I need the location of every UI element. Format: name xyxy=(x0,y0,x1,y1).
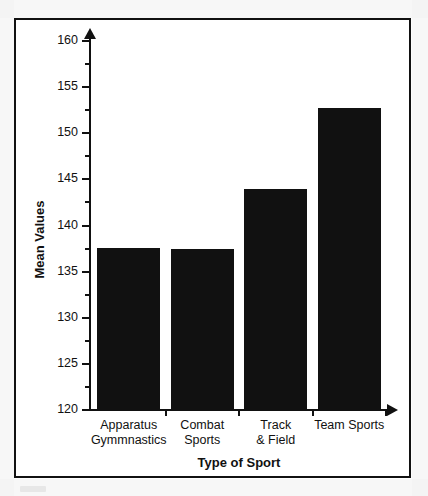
y-tick-major xyxy=(82,271,90,273)
y-tick-major xyxy=(82,225,90,227)
bar-chart: 120125130135140145150155160 ApparatusGym… xyxy=(0,0,428,496)
x-axis-title: Type of Sport xyxy=(89,455,389,470)
category-label-line: & Field xyxy=(233,433,319,448)
category-label-line: Team Sports xyxy=(307,418,393,433)
x-tick xyxy=(312,409,314,416)
bar[interactable] xyxy=(244,189,307,410)
y-tick-minor xyxy=(85,201,90,203)
x-axis-arrow-icon xyxy=(387,404,398,416)
y-tick-label: 130 xyxy=(14,310,78,324)
category-label: Team Sports xyxy=(307,418,393,433)
y-tick-minor xyxy=(85,340,90,342)
y-tick-minor xyxy=(85,155,90,157)
y-axis-title: Mean Values xyxy=(32,185,47,295)
y-tick-major xyxy=(82,178,90,180)
y-tick-major xyxy=(82,40,90,42)
bar[interactable] xyxy=(97,248,160,410)
x-tick xyxy=(165,409,167,416)
y-tick-minor xyxy=(85,386,90,388)
y-tick-major xyxy=(82,132,90,134)
figure-root: 120125130135140145150155160 ApparatusGym… xyxy=(0,0,428,496)
y-tick-label: 120 xyxy=(14,402,78,416)
y-tick-minor xyxy=(85,248,90,250)
y-tick-label: 125 xyxy=(14,356,78,370)
y-tick-major xyxy=(82,363,90,365)
y-tick-label: 145 xyxy=(14,171,78,185)
y-tick-minor xyxy=(85,109,90,111)
bar[interactable] xyxy=(318,108,381,410)
x-tick xyxy=(385,409,387,416)
y-tick-minor xyxy=(85,294,90,296)
y-axis-arrow-icon xyxy=(84,28,96,39)
y-tick-minor xyxy=(85,63,90,65)
y-tick-major xyxy=(82,409,90,411)
y-tick-major xyxy=(82,317,90,319)
y-tick-label: 155 xyxy=(14,79,78,93)
y-tick-label: 150 xyxy=(14,125,78,139)
x-tick xyxy=(238,409,240,416)
y-tick-major xyxy=(82,86,90,88)
bar[interactable] xyxy=(171,249,234,410)
y-tick-label: 160 xyxy=(14,33,78,47)
